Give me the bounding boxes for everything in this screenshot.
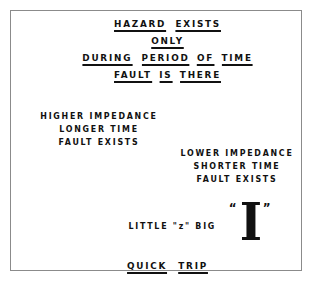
heading-word: ONLY bbox=[151, 36, 184, 49]
emphasis-row: LITTLE "z" BIG “ I ” bbox=[11, 222, 313, 231]
heading-word: THERE bbox=[180, 70, 221, 83]
heading-word: DURING bbox=[82, 53, 132, 66]
left-condition-line: LONGER TIME bbox=[25, 125, 172, 134]
heading-word: HAZARD bbox=[114, 19, 166, 32]
big-current-letter: I bbox=[240, 200, 262, 245]
conclusion-row: QUICKTRIP bbox=[22, 261, 313, 274]
conclusion-word: TRIP bbox=[178, 261, 208, 274]
heading-line-1: HAZARDEXISTS bbox=[22, 19, 313, 32]
left-condition-line: HIGHER IMPEDANCE bbox=[25, 112, 172, 121]
heading-line-3: DURINGPERIODOFTIME bbox=[22, 53, 313, 66]
big-current-symbol-group: “ I ” bbox=[228, 200, 276, 252]
right-condition-line: SHORTER TIME bbox=[163, 162, 310, 171]
left-condition-line: FAULT EXISTS bbox=[25, 138, 172, 147]
conclusion-word: QUICK bbox=[127, 261, 167, 274]
emphasis-text: LITTLE "z" BIG bbox=[128, 221, 216, 231]
heading-line-4: FAULTISTHERE bbox=[22, 70, 313, 83]
slide-border-frame: HAZARDEXISTS ONLY DURINGPERIODOFTIME FAU… bbox=[10, 10, 302, 271]
right-condition-line: FAULT EXISTS bbox=[163, 175, 310, 184]
heading-word: PERIOD bbox=[141, 53, 189, 66]
emphasis-row-inner: LITTLE "z" BIG “ I ” bbox=[119, 222, 216, 231]
heading-line-2: ONLY bbox=[22, 36, 313, 49]
heading-word: EXISTS bbox=[176, 19, 221, 32]
close-quote-mark: ” bbox=[263, 201, 271, 214]
left-condition-block: HIGHER IMPEDANCE LONGER TIME FAULT EXIST… bbox=[25, 112, 172, 150]
slide-canvas: HAZARDEXISTS ONLY DURINGPERIODOFTIME FAU… bbox=[0, 0, 313, 283]
right-condition-line: LOWER IMPEDANCE bbox=[163, 149, 310, 158]
right-condition-block: LOWER IMPEDANCE SHORTER TIME FAULT EXIST… bbox=[163, 149, 310, 187]
heading-word: FAULT bbox=[114, 70, 152, 83]
open-quote-mark: “ bbox=[229, 201, 237, 214]
heading-word: TIME bbox=[221, 53, 252, 66]
heading-word: IS bbox=[159, 70, 172, 83]
heading-word: OF bbox=[197, 53, 214, 66]
